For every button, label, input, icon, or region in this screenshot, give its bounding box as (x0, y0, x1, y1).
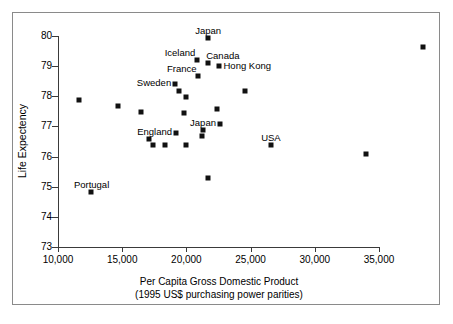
data-point-japan (206, 35, 211, 40)
data-point (139, 109, 144, 114)
data-point (176, 88, 181, 93)
point-label-iceland: Iceland (165, 48, 196, 58)
data-point (243, 88, 248, 93)
y-tick-mark (52, 36, 58, 37)
x-axis-title-line-1: Per Capita Gross Domestic Product (58, 276, 380, 289)
x-tick-label: 35,000 (364, 254, 395, 265)
x-tick-mark (186, 247, 187, 252)
y-axis-line (58, 36, 59, 248)
scatter-plot: Life Expectency Per Capita Gross Domesti… (0, 0, 453, 324)
data-point (364, 152, 369, 157)
data-point-japan (201, 128, 206, 133)
point-label-portugal: Portugal (74, 180, 109, 190)
data-point-portugal (89, 190, 94, 195)
y-tick-label: 75 (22, 182, 52, 192)
point-label-hong-kong: Hong Kong (224, 61, 272, 71)
y-tick-label: 74 (22, 212, 52, 222)
data-point (184, 143, 189, 148)
data-point-usa (269, 143, 274, 148)
y-tick-label: 79 (22, 61, 52, 71)
y-tick-mark (52, 187, 58, 188)
data-point (206, 175, 211, 180)
x-tick-mark (251, 247, 252, 252)
x-tick-label: 10,000 (43, 254, 74, 265)
point-label-france: France (167, 64, 197, 74)
x-axis-title: Per Capita Gross Domestic Product (1995 … (58, 276, 380, 301)
y-tick-label: 77 (22, 121, 52, 131)
y-tick-mark (52, 217, 58, 218)
data-point-iceland (194, 58, 199, 63)
y-tick-label: 76 (22, 152, 52, 162)
data-point (162, 143, 167, 148)
y-tick-label: 80 (22, 31, 52, 41)
data-point (199, 134, 204, 139)
data-point (181, 110, 186, 115)
point-label-sweden: Sweden (137, 78, 171, 88)
point-label-japan: Japan (190, 118, 216, 128)
data-point-england (174, 131, 179, 136)
y-tick-mark (52, 96, 58, 97)
x-tick-label: 30,000 (300, 254, 331, 265)
y-tick-label: 73 (22, 242, 52, 252)
data-point (116, 103, 121, 108)
data-point (215, 106, 220, 111)
data-point-canada (206, 61, 211, 66)
data-point (217, 122, 222, 127)
y-tick-mark (52, 66, 58, 67)
x-tick-mark (58, 247, 59, 252)
x-tick-label: 15,000 (107, 254, 138, 265)
x-axis-line (58, 247, 380, 248)
data-point (151, 143, 156, 148)
point-label-england: England (137, 127, 172, 137)
y-tick-label: 78 (22, 91, 52, 101)
x-tick-mark (315, 247, 316, 252)
point-label-japan: Japan (195, 26, 221, 36)
x-axis-title-line-2: (1995 US$ purchasing power parities) (58, 289, 380, 302)
point-label-usa: USA (261, 133, 281, 143)
data-point-france (195, 73, 200, 78)
data-point (147, 137, 152, 142)
x-tick-label: 25,000 (235, 254, 266, 265)
data-point (420, 45, 425, 50)
data-point-hong-kong (216, 64, 221, 69)
y-tick-mark (52, 126, 58, 127)
data-point (184, 94, 189, 99)
x-tick-mark (122, 247, 123, 252)
data-point-sweden (172, 82, 177, 87)
y-tick-mark (52, 157, 58, 158)
data-point (76, 97, 81, 102)
x-tick-label: 20,000 (171, 254, 202, 265)
x-tick-mark (379, 247, 380, 252)
